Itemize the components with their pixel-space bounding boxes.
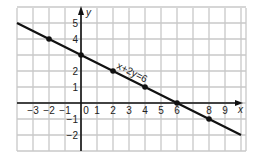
y-tick-label: −1	[67, 114, 79, 125]
x-tick-label: 1	[94, 105, 100, 116]
x-tick-label: 3	[126, 105, 132, 116]
y-tick-label: 2	[72, 66, 78, 77]
data-point	[46, 36, 52, 42]
x-tick-label: 6	[174, 105, 180, 116]
data-point	[174, 100, 180, 106]
x-tick-label: 8	[206, 105, 212, 116]
data-point	[78, 52, 84, 58]
x-tick-label: 4	[142, 105, 148, 116]
grid-lines	[17, 7, 246, 151]
x-tick-label: 5	[158, 105, 164, 116]
y-tick-label: 5	[72, 18, 78, 29]
x-tick-label: −2	[43, 105, 55, 116]
y-tick-label: 4	[72, 34, 78, 45]
y-axis-label: y	[85, 7, 92, 18]
y-tick-label: 1	[72, 82, 78, 93]
data-point	[142, 84, 148, 90]
data-point	[206, 116, 212, 122]
x-axis-label: x	[237, 104, 244, 115]
x-tick-label: 9	[222, 105, 228, 116]
coordinate-plane-chart: −3−2−10123456895421−1−2 x+2y=6 x y	[0, 0, 254, 156]
x-tick-label: −3	[27, 105, 39, 116]
x-tick-label: 2	[110, 105, 116, 116]
x-tick-label: 0	[83, 105, 89, 116]
y-tick-label: −2	[67, 130, 79, 141]
